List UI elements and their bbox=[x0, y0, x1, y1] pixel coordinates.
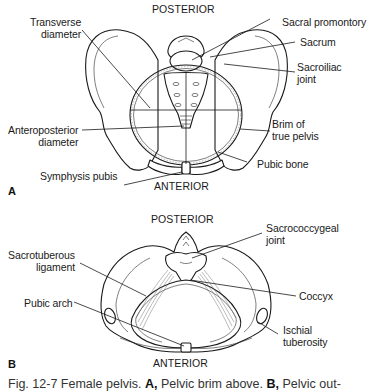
label-brim-of-true-pelvis: Brim of true pelvis bbox=[272, 118, 319, 142]
label-line: Transverse bbox=[30, 16, 81, 28]
pelvis-a-drawing bbox=[86, 30, 288, 175]
label-line: joint bbox=[297, 73, 342, 85]
label-ischial-tuberosity: Ischial tuberosity bbox=[283, 324, 328, 348]
label-sacral-promontory: Sacral promontory bbox=[282, 16, 366, 28]
label-line: Brim of bbox=[272, 118, 319, 130]
label-line: tuberosity bbox=[283, 336, 328, 348]
label-pubic-arch: Pubic arch bbox=[24, 297, 73, 309]
figure-caption: Fig. 12-7 Female pelvis. A, Pelvic brim … bbox=[8, 377, 341, 391]
caption-b-text: Pelvic out- bbox=[282, 377, 340, 391]
label-line: Sacrotuberous bbox=[8, 249, 75, 261]
label-line: joint bbox=[266, 234, 339, 246]
caption-a-letter: A, bbox=[145, 377, 158, 391]
pelvis-b-drawing bbox=[101, 232, 271, 352]
label-line: Sacrococcygeal bbox=[266, 222, 339, 234]
label-transverse-diameter: Transverse diameter bbox=[30, 16, 81, 40]
label-anteroposterior-diameter: Anteroposterior diameter bbox=[8, 124, 78, 148]
panel-a-posterior-label: POSTERIOR bbox=[152, 3, 215, 15]
panel-a-anterior-label: ANTERIOR bbox=[154, 180, 209, 192]
caption-title: Female pelvis. bbox=[61, 377, 142, 391]
panel-b-letter: B bbox=[8, 358, 16, 370]
label-line: Anteroposterior bbox=[8, 124, 78, 136]
label-line: ligament bbox=[8, 261, 75, 273]
label-coccyx: Coccyx bbox=[299, 290, 333, 302]
label-line: Ischial bbox=[283, 324, 328, 336]
panel-a-letter: A bbox=[8, 185, 16, 197]
label-line: Sacroiliac bbox=[297, 61, 342, 73]
label-sacrococcygeal-joint: Sacrococcygeal joint bbox=[266, 222, 339, 246]
label-sacrum: Sacrum bbox=[300, 36, 336, 48]
label-sacrotuberous-ligament: Sacrotuberous ligament bbox=[8, 249, 75, 273]
label-line: true pelvis bbox=[272, 130, 319, 142]
caption-a-text: Pelvic brim above. bbox=[161, 377, 263, 391]
label-symphysis-pubis: Symphysis pubis bbox=[40, 170, 117, 182]
label-sacroiliac-joint: Sacroiliac joint bbox=[297, 61, 342, 85]
caption-prefix: Fig. 12-7 bbox=[8, 377, 57, 391]
panel-b-posterior-label: POSTERIOR bbox=[151, 213, 214, 225]
label-pubic-bone: Pubic bone bbox=[257, 158, 309, 170]
label-line: diameter bbox=[30, 28, 81, 40]
panel-b-anterior-label: ANTERIOR bbox=[153, 357, 208, 369]
label-line: diameter bbox=[8, 136, 78, 148]
caption-b-letter: B, bbox=[267, 377, 280, 391]
